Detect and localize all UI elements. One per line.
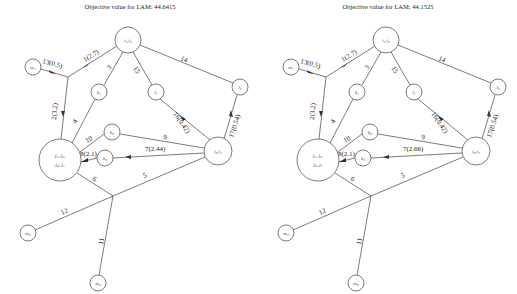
edge-label: 15 [131,65,142,75]
node-i3-i4: i₃,i₄ [204,137,232,165]
edge-label: 2(3.2) [50,102,60,120]
edge-label: 5 [142,171,149,180]
edge-label: 4 [71,118,80,125]
edge-label: 13(0.5) [41,57,63,70]
edge-label: 11 [97,237,106,246]
edge-label: 13(0.5) [299,57,321,70]
svg-text:k₂: k₂ [361,156,365,161]
edge-label: 1(2.7) [82,48,101,64]
svg-text:k₁: k₁ [97,90,101,95]
edge-11 [99,196,113,275]
edge-2 [319,77,326,139]
edge-label: 4 [329,118,338,125]
edge-5 [371,157,463,196]
svg-text:l₁: l₁ [154,90,157,95]
svg-text:k₂: k₂ [103,156,107,161]
svg-text:k₁: k₁ [355,90,359,95]
node-m2: m₂ [20,225,36,241]
edge-label: 17(0.54) [227,113,242,139]
node-l1: l₁ [406,84,422,100]
arrow-icon [83,63,89,68]
edge-2 [61,77,68,139]
arrow-icon [319,111,323,117]
edge-label: 15 [389,65,400,75]
svg-text:m₃: m₃ [95,281,101,286]
edge-label: 5 [400,171,407,180]
edge-label: 1(2.7) [340,48,359,64]
node-m1: m₁ [25,59,41,75]
svg-text:l₂: l₂ [238,85,241,90]
svg-text:k₃: k₃ [368,130,372,135]
edge-label: 14 [437,54,447,64]
edge-label: 9 [163,133,168,142]
svg-text:l₁: l₁ [412,90,415,95]
edge-label: 8(2.1) [80,150,98,158]
arrow-icon [383,155,389,159]
panel-title: Objective value for LAM: 44.1525 [343,3,434,10]
edge-12 [35,196,113,230]
node-k2: k₂ [355,150,371,166]
edge-label: 10 [342,134,352,145]
node-k1: k₁ [349,84,365,100]
node-l2: l₂ [232,79,248,95]
edge-14 [398,45,491,83]
node-j1-j4: j₁, j₂, j₃, j₄ [297,139,339,181]
edge-label: 11 [355,237,364,246]
panel-title: Objective value for LAM: 44.6415 [85,3,176,10]
svg-text:m₂: m₂ [283,231,289,236]
node-i3-i4: i₃,i₄ [462,137,490,165]
edge-label: 2(3.2) [308,102,318,120]
panel-right: Objective value for LAM: 44.1525 1(2.7) … [278,3,506,291]
node-j1-j4: j₁, j₂, j₃, j₄ [39,139,81,181]
svg-text:l₂: l₂ [496,85,499,90]
svg-text:m₁: m₁ [30,65,36,70]
node-m3: m₃ [348,275,364,291]
edge-label: 17(0.54) [485,113,500,139]
svg-text:m₁: m₁ [288,65,294,70]
arrow-icon [49,70,56,74]
node-l1: l₁ [148,84,164,100]
edge-label: 9 [421,133,426,142]
node-m1: m₁ [283,59,299,75]
edge-13 [299,69,326,77]
edge-label: 8(2.1) [338,150,356,158]
svg-text:k₃: k₃ [110,130,114,135]
node-k3: k₃ [104,124,120,140]
node-k1: k₁ [91,84,107,100]
edge-14 [140,45,233,83]
node-m2: m₂ [278,225,294,241]
panel-left: Objective value for LAM: 44.6415 1(2.7) … [20,3,248,291]
diagram-figure: Objective value for LAM: 44.6415 1(2.7) … [0,0,517,294]
edge-5 [113,157,205,196]
svg-text:m₂: m₂ [25,231,31,236]
node-k2: k₂ [97,150,113,166]
edge-label: 14 [179,54,189,64]
node-k3: k₃ [362,124,378,140]
arrow-icon [125,155,131,159]
edge-12 [293,196,371,230]
edge-13 [41,69,68,77]
node-m3: m₃ [90,275,106,291]
arrow-icon [61,111,65,117]
edge-label: 7(2.44) [145,145,166,153]
edge-label: 10 [84,134,94,145]
node-i1-i2: i₁,i₂ [115,27,141,53]
svg-text:m₃: m₃ [353,281,359,286]
edge-label: 7(2.66) [403,145,424,153]
node-i1-i2: i₁,i₂ [373,27,399,53]
edge-11 [357,196,371,275]
node-l2: l₂ [490,79,506,95]
